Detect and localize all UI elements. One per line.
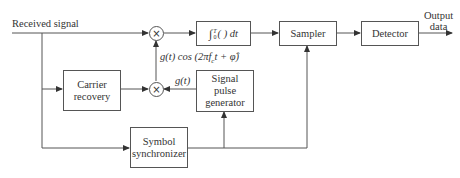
detector-block: Detector <box>361 21 419 46</box>
symbol-synchronizer-block: Symbol synchronizer <box>130 127 188 168</box>
multiply-icon: × <box>152 28 160 39</box>
output-label-line2: data <box>424 21 453 32</box>
signal-pulse-line1: Signal <box>212 73 239 85</box>
signal-pulse-line3: generator <box>205 97 245 109</box>
bottom-multiplier: × <box>149 82 164 97</box>
integral-lower-limit: 0 <box>213 34 216 40</box>
pulse-signal-label: g(t) <box>175 75 190 86</box>
carrier-recovery-line2: recovery <box>74 91 111 103</box>
output-data-label: Output data <box>424 10 453 32</box>
carrier-recovery-block: Carrier recovery <box>63 70 121 111</box>
integrator-block: ∫T0( ) dt <box>196 21 251 46</box>
symbol-sync-line1: Symbol <box>143 136 176 148</box>
sampler-label: Sampler <box>291 28 326 40</box>
symbol-sync-line2: synchronizer <box>132 148 186 160</box>
signal-pulse-line2: pulse <box>214 85 236 97</box>
reference-signal-label: g(t) cos (2πfct + φ̂) <box>160 51 239 65</box>
received-signal-label: Received signal <box>12 18 79 29</box>
multiply-icon: × <box>152 84 160 95</box>
detector-label: Detector <box>372 28 408 40</box>
reference-signal-tail: t + φ̂) <box>214 51 239 62</box>
signal-pulse-generator-block: Signal pulse generator <box>196 70 254 112</box>
integral-icon: ∫ <box>209 28 212 40</box>
integrand: ( ) dt <box>218 28 238 40</box>
output-label-line1: Output <box>424 10 453 21</box>
carrier-recovery-line1: Carrier <box>77 79 107 91</box>
reference-signal-text: g(t) cos (2πf <box>160 51 211 62</box>
top-multiplier: × <box>149 26 164 41</box>
sampler-block: Sampler <box>279 21 337 46</box>
